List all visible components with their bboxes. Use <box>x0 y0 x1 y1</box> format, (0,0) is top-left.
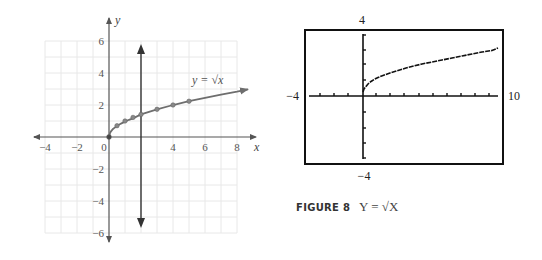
ymax-label: 4 <box>359 13 365 27</box>
y-tick-label: −4 <box>92 195 104 207</box>
ymin-label: −4 <box>358 169 371 183</box>
x-tick-label: 0 <box>101 141 107 153</box>
right-graph: 4 −4 −4 10 <box>286 13 520 183</box>
left-graph: −4 −2 0 4 6 8 x 6 4 2 −2 −4 −6 y y = √x <box>34 13 260 242</box>
y-tick-label: 6 <box>99 35 105 47</box>
y-tick-label: −2 <box>92 163 104 175</box>
figure-number: FIGURE 8 <box>296 202 350 213</box>
x-tick-label: −2 <box>71 141 83 153</box>
x-axis-label: x <box>253 140 260 154</box>
xmin-label: −4 <box>286 89 299 103</box>
caption-equation: Y = √X <box>359 199 398 214</box>
x-tick-label: 4 <box>170 141 176 153</box>
arrow-up-icon <box>137 44 145 54</box>
y-axis-label: y <box>114 13 121 27</box>
xmax-label: 10 <box>508 89 520 103</box>
y-tick-label: 4 <box>99 67 105 79</box>
arrow-down-icon <box>137 218 145 228</box>
y-tick-label: 2 <box>99 99 105 111</box>
x-tick-label: −4 <box>39 141 51 153</box>
figure-canvas: −4 −2 0 4 6 8 x 6 4 2 −2 −4 −6 y y = √x <box>0 0 542 260</box>
sqrt-curve <box>109 89 248 137</box>
figure-caption: FIGURE 8 Y = √X <box>296 199 398 215</box>
x-tick-label: 8 <box>234 141 240 153</box>
calculator-frame <box>305 30 503 164</box>
x-tick-label: 6 <box>202 141 208 153</box>
y-tick-label: −6 <box>92 227 104 239</box>
equation-label: y = √x <box>191 73 224 87</box>
